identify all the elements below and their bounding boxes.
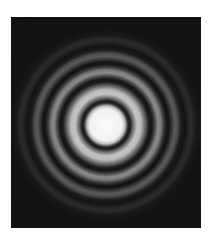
airy-ring-pattern	[11, 17, 201, 228]
diffraction-image: Circular diffraction pattern (Airy rings…	[11, 17, 201, 228]
